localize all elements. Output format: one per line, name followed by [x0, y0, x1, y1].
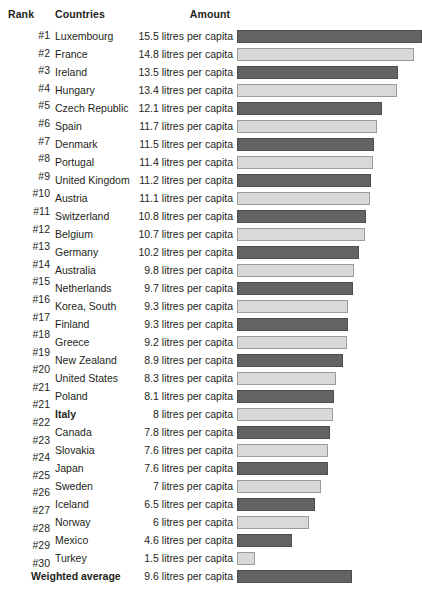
amount-label: 6 litres per capita [93, 516, 233, 529]
value-bar [237, 372, 336, 385]
column-header-amount: Amount [150, 8, 270, 20]
bar-track [237, 48, 414, 61]
bar-track [237, 246, 359, 259]
table-row[interactable]: Italy8 litres per capita [0, 406, 421, 424]
table-row[interactable]: United Kingdom11.2 litres per capita [0, 172, 421, 190]
table-row[interactable]: Spain11.7 litres per capita [0, 118, 421, 136]
amount-label: 6.5 litres per capita [93, 498, 233, 511]
amount-label: 9.3 litres per capita [93, 318, 233, 331]
table-row[interactable]: Netherlands9.7 litres per capita [0, 280, 421, 298]
amount-label: 7.6 litres per capita [93, 444, 233, 457]
bar-track [237, 426, 330, 439]
table-row[interactable]: Portugal11.4 litres per capita [0, 154, 421, 172]
value-bar [237, 120, 377, 133]
column-header-countries: Countries [55, 8, 105, 20]
amount-label: 9.6 litres per capita [93, 570, 233, 583]
table-row[interactable]: France14.8 litres per capita [0, 46, 421, 64]
amount-label: 10.8 litres per capita [93, 210, 233, 223]
bar-track [237, 570, 352, 583]
bar-track [237, 462, 328, 475]
country-label: Austria [55, 192, 88, 205]
table-row[interactable]: Switzerland10.8 litres per capita [0, 208, 421, 226]
value-bar [237, 30, 422, 43]
amount-label: 11.7 litres per capita [93, 120, 233, 133]
value-bar [237, 318, 348, 331]
amount-label: 14.8 litres per capita [93, 48, 233, 61]
table-row[interactable]: Germany10.2 litres per capita [0, 244, 421, 262]
bar-track [237, 552, 255, 565]
bar-track [237, 498, 315, 511]
amount-label: 9.8 litres per capita [93, 264, 233, 277]
value-bar [237, 390, 334, 403]
amount-label: 4.6 litres per capita [93, 534, 233, 547]
amount-label: 7.8 litres per capita [93, 426, 233, 439]
bar-track [237, 480, 321, 493]
country-label: Ireland [55, 66, 87, 79]
bar-track [237, 138, 374, 151]
bar-track [237, 318, 348, 331]
table-row[interactable]: Japan7.6 litres per capita [0, 460, 421, 478]
bar-track [237, 120, 377, 133]
value-bar [237, 336, 347, 349]
amount-label: 8.1 litres per capita [93, 390, 233, 403]
table-row[interactable]: Norway6 litres per capita [0, 514, 421, 532]
value-bar [237, 210, 366, 223]
country-label: Greece [55, 336, 89, 349]
table-row[interactable]: Turkey1.5 litres per capita [0, 550, 421, 568]
table-row[interactable]: Czech Republic12.1 litres per capita [0, 100, 421, 118]
table-row[interactable]: Canada7.8 litres per capita [0, 424, 421, 442]
table-row[interactable]: Sweden7 litres per capita [0, 478, 421, 496]
value-bar [237, 480, 321, 493]
bar-track [237, 444, 328, 457]
country-label: Hungary [55, 84, 95, 97]
table-row[interactable]: Iceland6.5 litres per capita [0, 496, 421, 514]
table-row[interactable]: Slovakia7.6 litres per capita [0, 442, 421, 460]
table-row[interactable]: Weighted average9.6 litres per capita [0, 568, 421, 586]
table-row[interactable]: Greece9.2 litres per capita [0, 334, 421, 352]
table-row[interactable]: Denmark11.5 litres per capita [0, 136, 421, 154]
country-label: Italy [55, 408, 76, 421]
amount-label: 8 litres per capita [93, 408, 233, 421]
country-label: Finland [55, 318, 89, 331]
amount-label: 10.7 litres per capita [93, 228, 233, 241]
value-bar [237, 300, 348, 313]
country-label: Denmark [55, 138, 98, 151]
table-row[interactable]: Hungary13.4 litres per capita [0, 82, 421, 100]
table-row[interactable]: Luxembourg15.5 litres per capita [0, 28, 421, 46]
country-label: Spain [55, 120, 82, 133]
table-row[interactable]: Australia9.8 litres per capita [0, 262, 421, 280]
value-bar [237, 156, 373, 169]
bar-track [237, 210, 366, 223]
amount-label: 9.7 litres per capita [93, 282, 233, 295]
amount-label: 10.2 litres per capita [93, 246, 233, 259]
amount-label: 7 litres per capita [93, 480, 233, 493]
table-row[interactable]: Austria11.1 litres per capita [0, 190, 421, 208]
table-row[interactable]: Korea, South9.3 litres per capita [0, 298, 421, 316]
table-row[interactable]: Belgium10.7 litres per capita [0, 226, 421, 244]
table-row[interactable]: Ireland13.5 litres per capita [0, 64, 421, 82]
amount-label: 11.1 litres per capita [93, 192, 233, 205]
value-bar [237, 426, 330, 439]
value-bar [237, 228, 365, 241]
value-bar [237, 534, 292, 547]
bar-track [237, 336, 347, 349]
value-bar [237, 84, 397, 97]
amount-label: 8.3 litres per capita [93, 372, 233, 385]
table-row[interactable]: Poland8.1 litres per capita [0, 388, 421, 406]
bar-track [237, 534, 292, 547]
table-row[interactable]: Mexico4.6 litres per capita [0, 532, 421, 550]
bar-track [237, 354, 343, 367]
value-bar [237, 444, 328, 457]
value-bar [237, 354, 343, 367]
amount-label: 15.5 litres per capita [93, 30, 233, 43]
bar-track [237, 228, 365, 241]
table-row[interactable]: United States8.3 litres per capita [0, 370, 421, 388]
value-bar [237, 102, 382, 115]
country-label: Norway [55, 516, 91, 529]
country-label: Iceland [55, 498, 89, 511]
bar-track [237, 102, 382, 115]
country-label: Turkey [55, 552, 87, 565]
table-row[interactable]: New Zealand8.9 litres per capita [0, 352, 421, 370]
table-row[interactable]: Finland9.3 litres per capita [0, 316, 421, 334]
amount-label: 11.4 litres per capita [93, 156, 233, 169]
